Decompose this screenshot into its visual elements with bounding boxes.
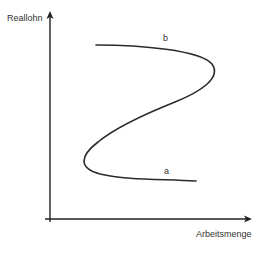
labor-supply-curve	[84, 45, 214, 181]
y-axis-label: Reallohn	[7, 14, 43, 23]
curve-point-label-a: a	[164, 167, 169, 176]
x-axis-label: Arbeitsmenge	[196, 230, 252, 239]
diagram-canvas: Reallohn Arbeitsmenge b a	[0, 0, 264, 253]
curve-point-label-b: b	[163, 34, 168, 43]
diagram-svg	[0, 0, 264, 253]
